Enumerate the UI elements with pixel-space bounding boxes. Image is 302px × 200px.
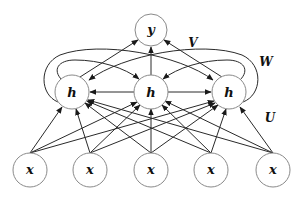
weight-label-u: U (265, 111, 277, 125)
input-node-1: x (13, 153, 47, 187)
svg-text:x: x (268, 162, 277, 177)
svg-text:x: x (85, 162, 94, 177)
input-node-2: x (73, 153, 107, 187)
input-node-3: x (134, 153, 168, 187)
input-node-4: x (194, 153, 228, 187)
hidden-node-2: h (134, 75, 168, 109)
svg-text:h: h (67, 85, 76, 100)
output-node-y: y (135, 14, 167, 46)
rnn-diagram: y h h h x x x x x V W U (0, 0, 302, 200)
weight-label-v: V (188, 36, 199, 50)
input-node-5: x (256, 153, 290, 187)
svg-text:x: x (206, 162, 215, 177)
svg-text:h: h (224, 85, 233, 100)
weight-label-w: W (259, 55, 274, 69)
svg-text:y: y (146, 22, 156, 37)
svg-text:x: x (146, 162, 155, 177)
svg-text:x: x (25, 162, 34, 177)
svg-text:h: h (146, 85, 155, 100)
hidden-node-3: h (212, 75, 246, 109)
hidden-node-1: h (55, 75, 89, 109)
